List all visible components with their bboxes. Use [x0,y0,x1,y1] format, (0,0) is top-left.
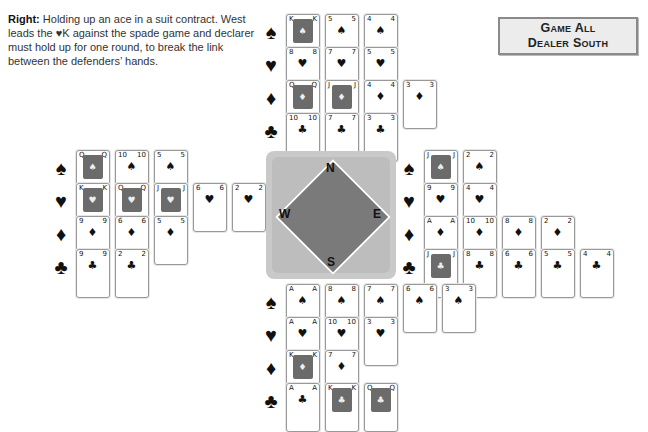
card-rank-right: 9 [103,251,107,258]
card-rank-right: 10 [347,319,356,326]
hearts-pip-icon: ♥ [425,194,457,206]
card-rank-right: 8 [352,286,356,293]
card: 44♣ [580,249,614,298]
card-rank-right: 4 [391,16,395,23]
card-rank: 2 [466,152,470,159]
spades-pip-icon: ♠ [155,161,187,173]
card-rank-right: J [453,251,455,258]
card-rank: A [289,286,294,293]
card-rank-right: A [312,286,317,293]
card: 33♦ [403,80,437,129]
card-rank-right: 3 [469,286,473,293]
card-rank-right: 5 [568,251,572,258]
diamonds-pip-icon: ♦ [365,91,397,103]
card-rank: 5 [328,16,332,23]
card-rank: 3 [367,319,371,326]
card: 22♣ [115,249,149,298]
clubs-pip-icon: ♣ [542,260,574,272]
card-rank: 2 [235,185,239,192]
card-rank: J [427,152,429,159]
card-rank: 6 [505,251,509,258]
card-rank-right: 10 [485,218,494,225]
card-rank-right: K [351,385,356,392]
card-rank-right: 6 [220,185,224,192]
spades-pip-icon: ♠ [365,25,397,37]
card-rank-right: 3 [391,319,395,326]
card-rank-right: 10 [308,115,317,122]
card-rank-right: 5 [352,16,356,23]
card-rank-right: 7 [352,115,356,122]
card-rank: 7 [328,115,332,122]
card-rank: 9 [427,185,431,192]
card-rank-right: 2 [142,251,146,258]
card-rank: 5 [544,251,548,258]
card-rank-right: 7 [391,286,395,293]
diamonds-pip-icon: ♦ [542,227,574,239]
hearts-pip-icon: ♥ [83,188,103,212]
card-rank-right: 8 [529,218,533,225]
caption-text: Holding up an ace in a suit contract. We… [8,13,254,67]
clubs-pip-icon: ♣ [287,394,319,406]
card-rank-right: J [183,185,185,192]
spades-pip-icon: ♠ [365,295,397,307]
compass-west: W [279,207,290,221]
spades-pip-icon: ♠ [443,295,475,307]
card-rank: 9 [79,218,83,225]
diamonds-pip-icon: ♦ [116,227,148,239]
card-rank: J [427,251,429,258]
card-rank: 4 [367,82,371,89]
card-rank: 3 [445,286,449,293]
clubs-pip-icon: ♣ [581,260,613,272]
card-rank-right: 5 [391,49,395,56]
card-rank: A [289,319,294,326]
card-rank: 5 [157,218,161,225]
card: 55♦ [154,216,188,265]
clubs-pip-icon: ♣ [464,260,496,272]
caption-lead: Right: [8,13,40,25]
card-rank-right: 2 [490,152,494,159]
card-rank-right: 9 [451,185,455,192]
clubs-pip-icon: ♣ [431,254,451,278]
card: 66♥ [193,183,227,232]
hearts-icon: ♥ [50,191,72,211]
clubs-pip-icon: ♣ [503,260,535,272]
card-rank: 3 [406,82,410,89]
card-rank: 6 [118,218,122,225]
diamonds-pip-icon: ♦ [404,91,436,103]
card-rank: 6 [406,286,410,293]
clubs-pip-icon: ♣ [77,260,109,272]
card-rank-right: J [354,82,356,89]
spades-pip-icon: ♠ [293,19,313,43]
card-rank: 5 [157,152,161,159]
card-rank-right: 5 [181,152,185,159]
card-rank: 2 [118,251,122,258]
spades-pip-icon: ♠ [287,295,319,307]
clubs-pip-icon: ♣ [287,124,319,136]
spades-pip-icon: ♠ [431,155,451,179]
card-rank: 10 [118,152,127,159]
hearts-pip-icon: ♥ [161,188,181,212]
card-rank-right: 4 [607,251,611,258]
card: QQ♣ [364,383,398,432]
diamonds-pip-icon: ♦ [503,227,535,239]
diamonds-pip-icon: ♦ [425,227,457,239]
card-rank-right: 5 [181,218,185,225]
spades-pip-icon: ♠ [464,161,496,173]
card: 33♥ [364,317,398,366]
diamonds-pip-icon: ♦ [155,227,187,239]
card-rank-right: 8 [490,251,494,258]
card-rank: 10 [289,115,298,122]
card-rank-right: 8 [313,49,317,56]
card-rank-right: 7 [352,352,356,359]
compass-table: N W E S [266,151,396,279]
card-rank: J [157,185,159,192]
spades-icon: ♠ [260,292,282,312]
diamonds-pip-icon: ♦ [293,355,313,379]
diamonds-icon: ♦ [50,224,72,244]
compass-east: E [373,207,381,221]
card-rank-right: A [450,218,455,225]
diamonds-icon: ♦ [260,358,282,378]
hearts-icon: ♥ [260,55,282,75]
spades-pip-icon: ♠ [326,25,358,37]
diamonds-icon: ♦ [398,224,420,244]
